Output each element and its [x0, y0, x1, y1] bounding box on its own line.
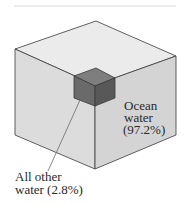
other-label-line2: water (2.8%)	[15, 184, 83, 196]
ocean-label-line3: (97.2%)	[123, 124, 165, 136]
